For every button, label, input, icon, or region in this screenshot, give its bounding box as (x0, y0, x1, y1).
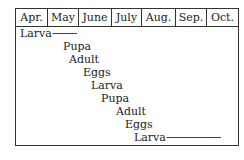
stage-pupa-1: Pupa (63, 41, 91, 53)
month-july: July (112, 9, 142, 26)
stage-adult-2: Adult (116, 106, 146, 118)
month-june: June (79, 9, 112, 26)
stage-larva-2: Larva (91, 80, 123, 92)
stage-larva-3: Larva-------------------- (134, 132, 220, 144)
stages-area: Larva--------- Pupa Adult Eggs Larva Pup… (16, 27, 238, 146)
month-sep: Sep. (176, 9, 207, 26)
month-header-row: Apr. May June July Aug. Sep. Oct. (16, 9, 238, 27)
month-apr: Apr. (16, 9, 48, 26)
stage-label: Adult (69, 53, 99, 66)
month-oct: Oct. (207, 9, 238, 26)
month-may: May (48, 9, 79, 26)
stage-eggs-1: Eggs (83, 67, 111, 79)
stage-label: Pupa (63, 40, 91, 53)
life-cycle-table: Apr. May June July Aug. Sep. Oct. Larva-… (15, 8, 239, 146)
stage-label: Larva (134, 131, 166, 144)
stage-eggs-2: Eggs (125, 119, 153, 131)
stage-label: Pupa (101, 92, 129, 105)
stage-larva-1: Larva--------- (20, 28, 76, 40)
month-aug: Aug. (142, 9, 176, 26)
stage-adult-1: Adult (69, 54, 99, 66)
stage-pupa-2: Pupa (101, 93, 129, 105)
stage-label: Larva (20, 27, 52, 40)
stage-trail: -------------------- (166, 131, 220, 144)
stage-label: Larva (91, 79, 123, 92)
stage-trail: --------- (52, 27, 76, 40)
stage-label: Adult (116, 105, 146, 118)
stage-label: Eggs (83, 66, 111, 79)
stage-label: Eggs (125, 118, 153, 131)
